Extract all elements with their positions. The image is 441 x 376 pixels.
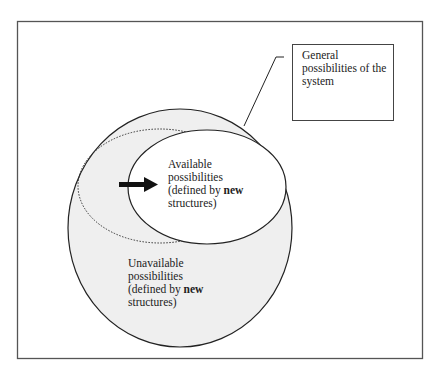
available-line-4: structures) — [168, 197, 278, 210]
unavailable-line-1: Unavailable — [128, 257, 238, 270]
unavailable-possibilities-label: Unavailable possibilities (defined by ne… — [128, 257, 238, 309]
available-line-3: (defined by new — [168, 184, 278, 197]
available-line-3-prefix: (defined by — [168, 184, 224, 196]
callout-label: General possibilities of the system — [302, 49, 392, 88]
callout-line-1: General — [302, 49, 392, 62]
unavailable-line-4: structures) — [128, 296, 238, 309]
unavailable-line-3-prefix: (defined by — [128, 283, 184, 295]
available-line-2: possibilities — [168, 171, 278, 184]
available-possibilities-label: Available possibilities (defined by new … — [168, 158, 278, 210]
available-line-3-bold: new — [224, 184, 244, 196]
unavailable-line-3: (defined by new — [128, 283, 238, 296]
callout-line-3: system — [302, 75, 392, 88]
unavailable-line-2: possibilities — [128, 270, 238, 283]
unavailable-line-3-bold: new — [184, 283, 204, 295]
callout-line-2: possibilities of the — [302, 62, 392, 75]
available-line-1: Available — [168, 158, 278, 171]
